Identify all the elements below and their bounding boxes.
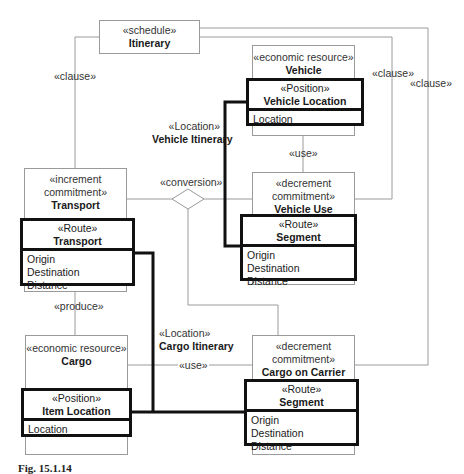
label-clause-left: «clause» [54, 70, 96, 83]
attribute: Destination [27, 266, 132, 279]
stereotype: «Route» [23, 222, 132, 235]
label-use-cargo: «use» [178, 359, 209, 372]
stereotype: «Location» [152, 120, 220, 133]
clause-line-left [75, 37, 99, 168]
role-cargo-segment[interactable]: «Route» Segment Origin Destination Dista… [244, 379, 359, 446]
role-attributes: Location [249, 111, 361, 126]
stereotype: «Position» [249, 82, 361, 95]
role-header: «Position» Vehicle Location [249, 81, 361, 111]
label-use-vehicle: «use» [289, 147, 318, 160]
class-name: Vehicle [253, 64, 354, 77]
role-header: «Route» Segment [247, 382, 356, 412]
role-attributes: Origin Destination Distance [247, 412, 356, 453]
label-cargo-itinerary: «Location» Cargo Itinerary [159, 327, 234, 353]
stereotype: «Route» [243, 218, 354, 231]
attribute: Destination [247, 262, 354, 275]
association-name: Vehicle Itinerary [152, 133, 220, 146]
stereotype: commitment» [253, 353, 354, 366]
role-name: Item Location [24, 405, 129, 418]
label-vehicle-itinerary: «Location» Vehicle Itinerary [152, 120, 220, 146]
class-name: Cargo on Carrier [253, 366, 354, 379]
figure-caption: Fig. 15.1.14 [18, 462, 72, 474]
stereotype: «Position» [24, 392, 129, 405]
stereotype: «increment [25, 173, 126, 186]
role-vehicle-location[interactable]: «Position» Vehicle Location Location [246, 78, 364, 126]
stereotype: «Route» [247, 383, 356, 396]
attribute: Distance [247, 275, 354, 288]
label-conversion: «conversion» [160, 176, 222, 189]
attribute: Location [28, 423, 129, 436]
role-header: «Route» Transport [23, 221, 132, 251]
stereotype: «Location» [159, 327, 234, 340]
label-clause-outer: «clause» [410, 77, 452, 90]
label-produce: «produce» [54, 300, 104, 313]
conversion-diamond [172, 189, 204, 209]
stereotype: «economic resource» [253, 51, 354, 64]
stereotype: «schedule» [100, 24, 199, 37]
label-clause-inner: «clause» [372, 67, 414, 80]
class-name: Itinerary [100, 37, 199, 50]
role-transport-route[interactable]: «Route» Transport Origin Destination Dis… [20, 218, 135, 286]
attribute: Origin [251, 414, 356, 427]
stereotype: «economic resource» [26, 342, 127, 355]
attribute: Distance [251, 440, 356, 453]
stereotype: «decrement [253, 177, 354, 190]
role-attributes: Origin Destination Distance [23, 251, 132, 292]
attribute: Origin [27, 253, 132, 266]
role-header: «Route» Segment [243, 217, 354, 247]
stereotype: commitment» [25, 186, 126, 199]
attribute: Destination [251, 427, 356, 440]
role-item-location[interactable]: «Position» Item Location Location [21, 388, 132, 437]
stereotype: «decrement [253, 340, 354, 353]
stereotype: commitment» [253, 190, 354, 203]
role-header: «Position» Item Location [24, 391, 129, 421]
class-name: Transport [25, 199, 126, 212]
role-attributes: Origin Destination Distance [243, 247, 354, 288]
role-vehicle-segment[interactable]: «Route» Segment Origin Destination Dista… [240, 214, 357, 281]
role-name: Segment [247, 396, 356, 409]
association-name: Cargo Itinerary [159, 340, 234, 353]
role-name: Segment [243, 231, 354, 244]
attribute: Distance [27, 279, 132, 292]
role-attributes: Location [24, 421, 129, 436]
role-name: Vehicle Location [249, 95, 361, 108]
role-name: Transport [23, 235, 132, 248]
attribute: Location [253, 113, 361, 126]
class-name: Cargo [26, 355, 127, 368]
attribute: Origin [247, 249, 354, 262]
class-itinerary[interactable]: «schedule» Itinerary [99, 20, 200, 54]
